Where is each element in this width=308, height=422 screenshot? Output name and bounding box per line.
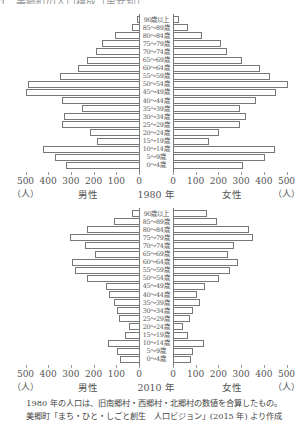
age-group-label: 10〜14歳 [139, 339, 173, 347]
bar-male [43, 146, 140, 153]
bar-female [173, 323, 183, 330]
bar-male [106, 283, 140, 290]
bar-male [85, 242, 140, 249]
axis-tick [218, 365, 219, 368]
age-group-label: 25〜29歳 [139, 315, 173, 323]
axis-tick-label-female: 500 [272, 369, 302, 379]
age-group-label: 85〜89歳 [139, 218, 173, 226]
bar-male [117, 307, 140, 314]
bar-male [82, 105, 140, 112]
bar-male [96, 48, 140, 55]
age-group-label: 45〜49歳 [139, 88, 173, 96]
bar-male [102, 40, 140, 47]
pyramid-1980: 90歳以上85〜89歳80〜84歳75〜79歳70〜74歳65〜69歳60〜64… [0, 0, 308, 205]
bar-female [173, 57, 242, 64]
female-label: 女性 [212, 380, 252, 394]
axis-tick [264, 365, 265, 368]
bar-male [66, 162, 140, 169]
axis-tick [264, 172, 265, 175]
bar-female [173, 121, 240, 128]
age-group-label: 0〜4歳 [139, 161, 173, 169]
age-group-label: 70〜74歳 [139, 48, 173, 56]
male-label: 男性 [68, 380, 108, 394]
year-label: 2010 年 [131, 380, 181, 394]
bar-female [173, 226, 249, 233]
bar-female [173, 332, 188, 339]
bar-female [173, 113, 246, 120]
axis-tick-label-male: 0 [124, 369, 154, 379]
bar-female [173, 218, 217, 225]
age-group-label: 25〜29歳 [139, 121, 173, 129]
bar-female [173, 24, 188, 31]
age-group-label: 90歳以上 [139, 16, 173, 24]
age-group-label: 10〜14歳 [139, 145, 173, 153]
bar-male [87, 226, 140, 233]
age-group-label: 40〜44歳 [139, 97, 173, 105]
bar-male [120, 356, 140, 363]
bar-male [87, 57, 140, 64]
bar-female [173, 48, 227, 55]
axis-tick [196, 365, 197, 368]
axis-tick [139, 172, 140, 175]
bar-male [109, 291, 140, 298]
bar-female [173, 340, 204, 347]
bar-male [60, 73, 140, 80]
age-group-label: 65〜69歳 [139, 250, 173, 258]
age-group-label: 45〜49歳 [139, 282, 173, 290]
age-group-label: 0〜4歳 [139, 355, 173, 363]
bar-female [173, 242, 234, 249]
age-group-label: 20〜24歳 [139, 129, 173, 137]
bar-female [173, 89, 276, 96]
bar-male [90, 129, 140, 136]
axis-tick [116, 172, 117, 175]
axis-tick [26, 365, 27, 368]
bar-female [173, 259, 238, 266]
bar-female [173, 234, 253, 241]
age-group-label: 30〜34歳 [139, 307, 173, 315]
axis-tick-label-female: 500 [272, 176, 302, 186]
bar-female [173, 299, 200, 306]
axis-tick [48, 172, 49, 175]
age-group-label: 60〜64歳 [139, 258, 173, 266]
age-group-label: 80〜84歳 [139, 32, 173, 40]
age-group-label: 15〜19歳 [139, 331, 173, 339]
pyramid-2010: 90歳以上85〜89歳80〜84歳75〜79歳70〜74歳65〜69歳60〜64… [0, 195, 308, 395]
bar-male [70, 234, 140, 241]
axis-tick [173, 172, 174, 175]
bar-male [55, 154, 140, 161]
bar-male [72, 259, 140, 266]
bar-male [28, 81, 140, 88]
age-group-label: 75〜79歳 [139, 40, 173, 48]
age-group-label: 75〜79歳 [139, 234, 173, 242]
axis-tick [218, 172, 219, 175]
age-group-label: 35〜39歳 [139, 105, 173, 113]
bar-male [108, 340, 140, 347]
axis-tick [139, 365, 140, 368]
age-group-label: 30〜34歳 [139, 113, 173, 121]
bar-male [117, 348, 140, 355]
bar-male [97, 138, 140, 145]
age-group-label: 90歳以上 [139, 210, 173, 218]
bar-male [125, 332, 140, 339]
axis-tick [94, 365, 95, 368]
age-group-label: 65〜69歳 [139, 56, 173, 64]
bar-male [78, 65, 140, 72]
bar-male [62, 97, 140, 104]
axis-tick [116, 365, 117, 368]
bar-female [173, 40, 221, 47]
axis-tick [241, 172, 242, 175]
axis-tick [196, 172, 197, 175]
axis-tick [71, 365, 72, 368]
age-group-label: 40〜44歳 [139, 291, 173, 299]
axis-tick [48, 365, 49, 368]
bar-female [173, 275, 219, 282]
axis-tick [287, 172, 288, 175]
bar-male [75, 267, 140, 274]
bar-female [173, 315, 190, 322]
age-group-label: 20〜24歳 [139, 323, 173, 331]
bar-male [62, 121, 140, 128]
bar-female [173, 16, 179, 23]
bar-male [114, 218, 140, 225]
axis-tick-label-male: 0 [124, 176, 154, 186]
footnote-source: 美郷町「まち・ひと・しごと創生 人口ビジョン」(2015 年) より作成 [0, 409, 308, 421]
